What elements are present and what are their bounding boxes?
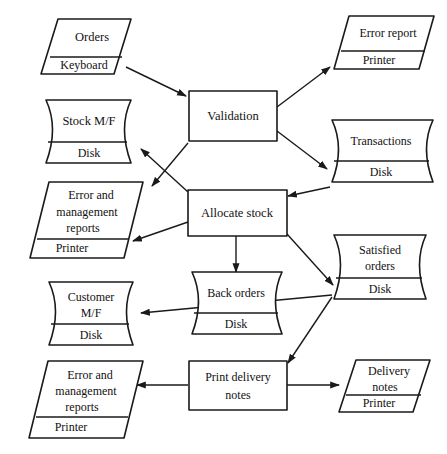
node-delivery-notes[interactable]: Delivery notes Printer [339,360,430,412]
transactions-label: Transactions [351,134,412,148]
print-delivery-notes-label-line1: Print delivery [205,370,271,384]
error-reports-bottom-label-line1: Error and [67,368,113,382]
satisfied-orders-label-line2: orders [365,259,395,273]
error-reports-top-media-label: Printer [56,241,89,255]
stock-mf-media-label: Disk [78,146,101,160]
print-delivery-notes-box [189,361,287,410]
orders-media-label: Keyboard [60,58,107,72]
connection-validation-to-error-report [277,67,330,107]
connection-validation-to-transactions [277,131,327,169]
satisfied-orders-media-label: Disk [369,282,392,296]
flowchart-svg: Orders Keyboard Stock M/F Disk Error and… [0,0,447,454]
error-reports-top-label-line1: Error and [68,188,114,202]
node-satisfied-orders[interactable]: Satisfied orders Disk [334,235,426,299]
customer-mf-label-line2: M/F [81,306,102,320]
connection-transactions-to-allocate-stock [288,187,330,196]
error-report-label: Error report [360,26,418,40]
node-stock-mf[interactable]: Stock M/F Disk [46,100,131,163]
node-back-orders[interactable]: Back orders Disk [192,272,282,334]
allocate-stock-label: Allocate stock [201,206,274,220]
node-error-report[interactable]: Error report Printer [334,16,434,69]
delivery-notes-media-label: Printer [363,396,396,410]
node-transactions[interactable]: Transactions Disk [332,120,433,182]
connection-allocate-stock-to-error-reports-top [133,222,188,241]
node-error-management-reports-bottom[interactable]: Error and management reports Printer [29,361,143,438]
connection-allocate-stock-to-stock-mf [141,149,188,192]
delivery-notes-label-line2: notes [372,380,398,394]
customer-mf-media-label: Disk [80,328,103,342]
customer-mf-label-line1: Customer [68,290,115,304]
print-delivery-notes-label-line2: notes [225,388,251,402]
connection-orders-to-validation [126,67,186,96]
error-reports-bottom-label-line3: reports [65,400,99,414]
node-orders[interactable]: Orders Keyboard [41,19,131,74]
error-reports-top-label-line3: reports [66,221,100,235]
back-orders-media-label: Disk [225,317,248,331]
error-reports-bottom-media-label: Printer [55,420,88,434]
flowchart-canvas: Orders Keyboard Stock M/F Disk Error and… [0,0,447,454]
node-error-management-reports-top[interactable]: Error and management reports Printer [30,182,143,258]
connection-allocate-stock-to-satisfied-orders [287,234,333,285]
error-report-media-label: Printer [363,53,396,67]
orders-label: Orders [75,30,109,44]
stock-mf-label: Stock M/F [62,114,115,128]
satisfied-orders-label-line1: Satisfied [359,243,401,257]
node-customer-mf[interactable]: Customer M/F Disk [49,282,133,345]
delivery-notes-label-line1: Delivery [368,364,410,378]
node-validation[interactable]: Validation [189,91,277,141]
connection-satisfied-orders-to-print-delivery-notes [288,297,332,363]
error-reports-bottom-label-line2: management [55,384,117,398]
error-reports-top-label-line2: management [56,205,118,219]
validation-label: Validation [207,109,259,123]
back-orders-label: Back orders [207,286,265,300]
node-print-delivery-notes[interactable]: Print delivery notes [189,361,287,410]
transactions-media-label: Disk [370,165,393,179]
node-allocate-stock[interactable]: Allocate stock [188,190,287,236]
